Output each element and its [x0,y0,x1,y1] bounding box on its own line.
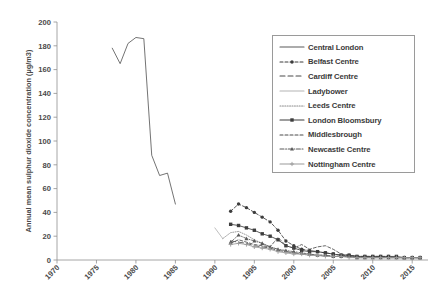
series-belfast-centre [229,202,422,259]
y-axis: 020406080100120140160180200 [38,18,57,265]
series-leeds-centre [223,231,420,257]
x-tick-label: 2015 [398,263,417,282]
series-line [215,228,223,239]
series-marker [237,233,241,237]
legend-swatch-icon [279,159,305,169]
y-tick-label: 140 [38,89,51,98]
legend-swatch-icon [279,101,305,111]
y-tick-label: 180 [38,42,51,51]
y-tick-label: 80 [43,161,51,170]
series-marker [284,239,287,242]
series-marker [276,229,279,232]
x-tick-label: 2000 [280,263,298,281]
legend-item-nottingham-centre[interactable]: Nottingham Centre [273,157,414,172]
legend-item-label: Leeds Centre [308,101,356,110]
legend-item-label: Ladybower [308,87,348,96]
legend-item-label: Nottingham Centre [308,160,376,169]
series-marker [245,206,248,209]
legend-item-cardiff-centre[interactable]: Cardiff Centre [273,69,414,84]
chart-legend: Central LondonBelfast CentreCardiff Cent… [272,35,415,173]
series-marker [253,211,256,214]
legend-item-label: London Bloomsbury [308,116,381,125]
series-central-london [112,37,175,204]
y-axis-title: Annual mean sulphur dioxide concentratio… [24,49,33,232]
series-ladybower [215,228,223,239]
series-marker [229,223,232,226]
legend-item-label: Central London [308,43,363,52]
y-tick-label: 160 [38,65,51,74]
series-marker [245,226,248,229]
series-marker [268,235,271,238]
legend-swatch-icon [279,86,305,96]
series-line [231,204,420,258]
legend-swatch-icon [279,71,305,81]
legend-item-middlesbrough[interactable]: Middlesbrough [273,128,414,143]
series-marker [290,119,293,122]
y-tick-label: 40 [43,208,51,217]
x-tick-label: 1980 [122,263,140,281]
x-tick-label: 1990 [201,263,219,281]
x-tick-label: 1975 [83,263,102,282]
series-marker [268,220,271,223]
legend-item-label: Middlesbrough [308,130,362,139]
series-marker [261,215,264,218]
x-axis: 1970197519801985199019952000200520102015 [43,260,428,281]
series-marker [237,224,240,227]
y-tick-label: 120 [38,113,51,122]
legend-swatch-icon [279,42,305,52]
y-tick-label: 60 [43,184,51,193]
legend-swatch-icon [279,144,305,154]
y-tick-label: 20 [43,232,51,241]
x-tick-label: 2005 [319,263,338,282]
legend-item-newcastle-centre[interactable]: Newcastle Centre [273,142,414,157]
series-line [223,231,420,257]
legend-item-central-london[interactable]: Central London [273,40,414,55]
y-tick-label: 0 [47,256,51,265]
series-marker [253,229,256,232]
legend-item-belfast-centre[interactable]: Belfast Centre [273,55,414,70]
y-tick-label: 100 [38,137,51,146]
legend-swatch-icon [279,57,305,67]
y-axis-title-text: Annual mean sulphur dioxide concentratio… [24,49,33,232]
x-tick-label: 1985 [161,263,180,282]
legend-swatch-icon [279,130,305,140]
legend-item-label: Cardiff Centre [308,72,358,81]
legend-swatch-icon [279,115,305,125]
x-tick-label: 2010 [359,263,377,281]
series-line [112,37,175,204]
legend-item-ladybower[interactable]: Ladybower [273,84,414,99]
series-marker [229,210,232,213]
series-marker [290,60,293,63]
legend-item-label: Newcastle Centre [308,145,371,154]
x-tick-label: 1995 [240,263,259,282]
series-marker [316,250,319,253]
sulphur-dioxide-line-chart: 020406080100120140160180200Annual mean s… [0,0,436,307]
x-tick-label: 1970 [43,263,61,281]
series-marker [237,202,240,205]
legend-item-label: Belfast Centre [308,57,359,66]
series-marker [261,232,264,235]
y-tick-label: 200 [38,18,51,27]
legend-item-leeds-centre[interactable]: Leeds Centre [273,98,414,113]
legend-item-london-bloomsbury[interactable]: London Bloomsbury [273,113,414,128]
